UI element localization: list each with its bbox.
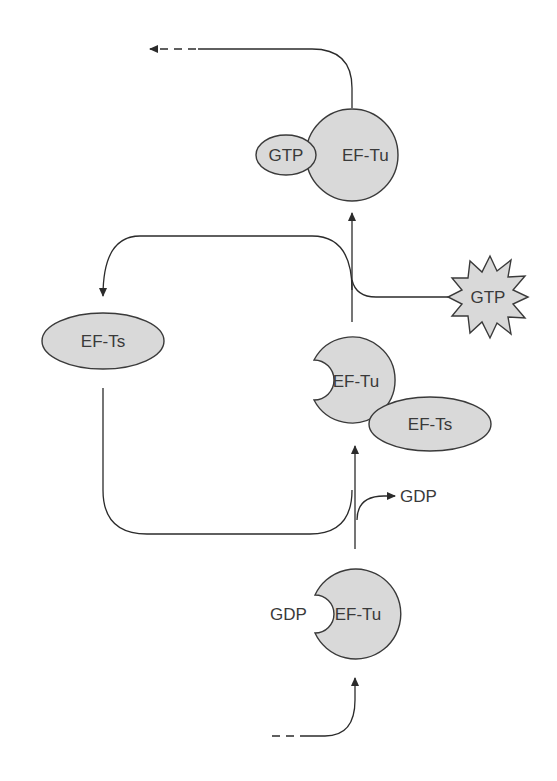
- ef-tu-label: EF-Tu: [342, 146, 389, 165]
- free-ef-ts: EF-Ts: [42, 313, 164, 369]
- gtp-entry-line: [352, 280, 452, 297]
- entry-arrow: [272, 678, 355, 736]
- middle-complex: EF-Tu EF-Ts: [314, 337, 491, 451]
- ef-tu-label: EF-Tu: [335, 605, 382, 624]
- gtp-label: GTP: [269, 146, 304, 165]
- bottom-complex: EF-Tu GDP: [270, 569, 401, 659]
- gdp-release-label: GDP: [400, 487, 437, 506]
- gdp-label: GDP: [270, 605, 307, 624]
- ef-ts-release-arrow: [103, 236, 352, 296]
- ef-ts-return-path: [103, 388, 352, 534]
- gtp-starburst-label: GTP: [471, 288, 506, 307]
- ef-ts-label: EF-Ts: [81, 332, 125, 351]
- gdp-release-arrow: [357, 496, 395, 520]
- top-complex: GTP EF-Tu: [256, 109, 398, 201]
- exit-arrow: [150, 49, 352, 108]
- ef-tu-label: EF-Tu: [333, 372, 380, 391]
- gtp-starburst: GTP: [448, 256, 528, 338]
- ef-ts-label: EF-Ts: [408, 415, 452, 434]
- diagram-canvas: GTP EF-Tu GTP EF-Ts EF-Tu EF-Ts GDP EF-T…: [0, 0, 557, 781]
